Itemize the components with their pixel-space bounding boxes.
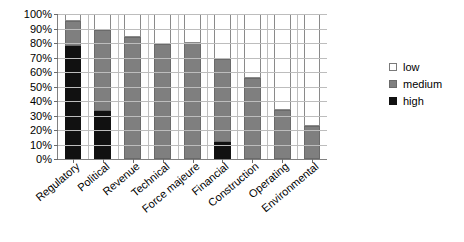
bar-segment-high[interactable] — [94, 111, 111, 159]
plot-area — [57, 14, 327, 160]
gridline-horizontal — [58, 116, 327, 117]
bar-segment-medium[interactable] — [274, 110, 291, 159]
chart-container: 100%90%80%70%60%50%40%30%20%10%0% Regula… — [0, 0, 464, 242]
legend-swatch-high-icon — [389, 97, 397, 105]
gridline-vertical — [148, 14, 149, 159]
legend-item[interactable]: high — [389, 92, 461, 109]
gridline-horizontal — [58, 145, 327, 146]
y-tick-label: 20% — [0, 125, 52, 136]
y-tick-mark — [54, 43, 58, 44]
y-tick-label: 90% — [0, 23, 52, 34]
legend-label: low — [403, 61, 420, 73]
y-tick-label: 80% — [0, 38, 52, 49]
bar-segment-low[interactable] — [304, 14, 321, 126]
y-tick-label: 60% — [0, 67, 52, 78]
gridline-vertical — [118, 14, 119, 159]
bar-segment-low[interactable] — [65, 14, 82, 21]
gridline-horizontal — [58, 72, 327, 73]
gridline-horizontal — [58, 43, 327, 44]
legend-label: high — [403, 95, 424, 107]
gridline-horizontal — [58, 101, 327, 102]
y-tick-label: 40% — [0, 96, 52, 107]
y-tick-mark — [54, 29, 58, 30]
legend-swatch-low-icon — [389, 63, 397, 71]
y-tick-mark — [54, 145, 58, 146]
chart-legend: lowmediumhigh — [389, 58, 461, 109]
y-tick-mark — [54, 58, 58, 59]
bar-segment-low[interactable] — [214, 14, 231, 59]
bar-segment-high[interactable] — [65, 46, 82, 159]
legend-item[interactable]: low — [389, 58, 461, 75]
y-tick-label: 70% — [0, 52, 52, 63]
bar-segment-medium[interactable] — [244, 78, 261, 159]
y-tick-mark — [54, 72, 58, 73]
gridline-vertical — [237, 14, 238, 159]
bar-segment-low[interactable] — [244, 14, 261, 78]
y-tick-label: 100% — [0, 9, 52, 20]
gridline-vertical — [207, 14, 208, 159]
legend-item[interactable]: medium — [389, 75, 461, 92]
legend-swatch-medium-icon — [389, 80, 397, 88]
gridline-vertical — [178, 14, 179, 159]
y-tick-label: 30% — [0, 110, 52, 121]
y-tick-mark — [54, 14, 58, 15]
x-axis: RegulatoryPoliticalRevenueTechnicalForce… — [57, 160, 357, 242]
y-tick-label: 0% — [0, 154, 52, 165]
y-axis: 100%90%80%70%60%50%40%30%20%10%0% — [0, 14, 52, 159]
gridline-horizontal — [58, 130, 327, 131]
gridline-horizontal — [58, 87, 327, 88]
gridline-horizontal — [58, 58, 327, 59]
bar-segment-medium[interactable] — [124, 37, 141, 159]
y-tick-label: 10% — [0, 139, 52, 150]
y-tick-mark — [54, 87, 58, 88]
gridline-vertical — [297, 14, 298, 159]
legend-label: medium — [403, 78, 442, 90]
gridline-horizontal — [58, 29, 327, 30]
gridline-horizontal — [58, 14, 327, 15]
y-tick-mark — [54, 101, 58, 102]
y-tick-label: 50% — [0, 81, 52, 92]
bar-segment-low[interactable] — [124, 14, 141, 37]
gridline-vertical — [267, 14, 268, 159]
y-tick-mark — [54, 116, 58, 117]
y-tick-mark — [54, 130, 58, 131]
gridline-vertical — [88, 14, 89, 159]
